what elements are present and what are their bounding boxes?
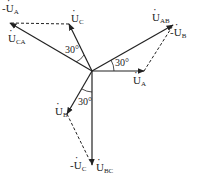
dashed-neg-uc	[67, 114, 91, 163]
label-ubc: UBC	[96, 162, 113, 175]
angle-arc-ca	[76, 55, 84, 62]
angle-label-ab: 30°	[115, 58, 129, 68]
label-ua: UA	[133, 75, 146, 88]
angle-label-ca: 30°	[65, 45, 79, 55]
label-neg-uc: -UC	[70, 160, 86, 173]
phasor-ub	[67, 71, 92, 114]
dashed-neg-ua	[11, 23, 69, 24]
label-neg-ub: -UB	[170, 27, 186, 40]
label-ub: UB	[55, 106, 68, 119]
label-neg-ua: -UA	[2, 3, 19, 16]
label-uc: UC	[71, 13, 84, 26]
angle-arc-bc	[82, 89, 92, 92]
angle-arc-ab	[111, 60, 114, 71]
label-uab: UAB	[152, 12, 170, 25]
phasor-diagram: -UA UC UCA UAB -UB UA UB -UC UBC 30° 30°…	[0, 0, 200, 177]
phasor-uab	[92, 25, 173, 71]
label-uca: UCA	[8, 33, 26, 46]
angle-label-bc: 30°	[78, 97, 92, 107]
